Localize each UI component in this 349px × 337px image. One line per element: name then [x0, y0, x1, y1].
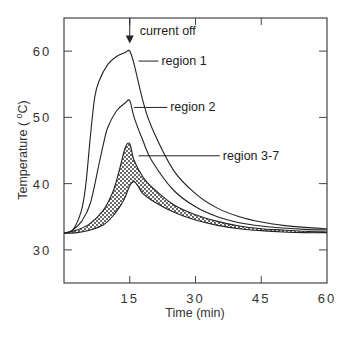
- annotation-region-2: region 2: [170, 100, 215, 114]
- x-tick-label: 45: [252, 291, 270, 306]
- series-lines: [64, 50, 327, 233]
- arrow-down-icon: [126, 36, 134, 44]
- x-axis-title: Time (min): [165, 306, 224, 320]
- y-axis-title-text: Temperature (: [16, 118, 30, 199]
- annotations: current offregion 1region 2region 3-7: [126, 18, 279, 163]
- y-tick-label: 30: [33, 243, 51, 258]
- y-axis-title-unit: C): [16, 100, 30, 113]
- x-tick-label: 15: [121, 291, 139, 306]
- annotation-region-1: region 1: [161, 54, 206, 68]
- y-tick-label: 40: [33, 177, 51, 192]
- x-tick-label: 30: [186, 291, 204, 306]
- y-tick-label: 60: [33, 44, 51, 59]
- temperature-chart: 15304560 30405060 current offregion 1reg…: [0, 0, 349, 337]
- annotation-current-off: current off: [140, 24, 197, 38]
- y-tick-label: 50: [33, 110, 51, 125]
- y-axis-title: Temperature ( oC): [14, 100, 30, 200]
- x-tick-label: 60: [318, 291, 336, 306]
- annotation-region-3-7: region 3-7: [223, 149, 279, 163]
